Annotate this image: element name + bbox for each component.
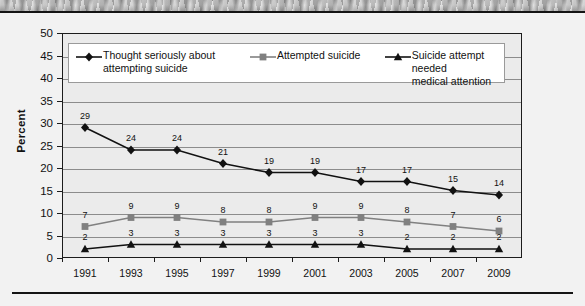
x-axis-tick-mark [108, 258, 109, 262]
x-axis-tick-label: 2003 [349, 267, 372, 279]
y-axis-tick-label: 5 [23, 230, 53, 242]
chart-page: Percent 05101520253035404550 19911993199… [0, 0, 585, 306]
triangle-marker-icon [384, 50, 412, 64]
header-photo-banner [0, 0, 585, 11]
data-point-marker [174, 214, 181, 221]
chart-legend: Thought seriously aboutattempting suicid… [68, 43, 505, 83]
data-point-value-label: 3 [128, 228, 133, 238]
legend-label: Suicide attempt neededmedical attention [412, 49, 504, 88]
data-point-value-label: 3 [174, 228, 179, 238]
series-line [85, 128, 499, 196]
data-point-value-label: 9 [312, 201, 317, 211]
data-point-marker [219, 159, 227, 168]
x-axis-tick-mark [200, 258, 201, 262]
data-point-marker [357, 177, 365, 186]
data-point-value-label: 8 [220, 205, 225, 215]
data-point-value-label: 3 [312, 228, 317, 238]
x-axis-tick-mark [430, 258, 431, 262]
x-axis-tick-label: 2001 [303, 267, 326, 279]
data-point-marker [265, 168, 273, 177]
x-axis-tick-label: 1999 [257, 267, 280, 279]
data-point-value-label: 17 [356, 165, 366, 175]
data-point-value-label: 3 [358, 228, 363, 238]
data-point-value-label: 21 [218, 147, 228, 157]
data-point-marker [449, 186, 457, 195]
y-axis-tick-label: 45 [23, 50, 53, 62]
x-axis-tick-mark [384, 258, 385, 262]
data-point-value-label: 7 [450, 210, 455, 220]
data-point-value-label: 3 [266, 228, 271, 238]
data-point-value-label: 2 [450, 232, 455, 242]
data-point-marker [127, 146, 135, 155]
data-point-marker [220, 219, 227, 226]
data-point-marker [85, 53, 93, 62]
x-axis-tick-label: 1997 [211, 267, 234, 279]
data-point-marker [82, 223, 89, 230]
data-point-value-label: 17 [402, 165, 412, 175]
y-axis-tick-label: 25 [23, 140, 53, 152]
square-marker-icon [249, 50, 277, 64]
y-axis-tick-label: 0 [23, 252, 53, 264]
x-axis-tick-label: 1993 [119, 267, 142, 279]
data-point-marker [495, 191, 503, 200]
data-point-value-label: 2 [82, 232, 87, 242]
data-point-value-label: 9 [128, 201, 133, 211]
data-point-marker [450, 223, 457, 230]
data-point-value-label: 24 [126, 133, 136, 143]
data-point-value-label: 29 [80, 111, 90, 121]
data-point-value-label: 7 [82, 210, 87, 220]
data-point-value-label: 8 [266, 205, 271, 215]
legend-label: Thought seriously aboutattempting suicid… [103, 49, 215, 75]
legend-entry-1[interactable]: Attempted suicide [243, 49, 378, 64]
data-point-marker [266, 219, 273, 226]
data-point-value-label: 2 [404, 232, 409, 242]
footer-divider-rule [12, 292, 573, 294]
x-axis-tick-label: 1991 [73, 267, 96, 279]
y-axis-tick-label: 35 [23, 95, 53, 107]
data-point-marker [358, 214, 365, 221]
x-axis-tick-mark [62, 258, 63, 262]
y-axis-tick-label: 10 [23, 207, 53, 219]
y-axis-tick-label: 30 [23, 117, 53, 129]
data-point-marker [311, 168, 319, 177]
x-axis-tick-mark [246, 258, 247, 262]
y-axis-tick-label: 50 [23, 27, 53, 39]
data-point-value-label: 9 [358, 201, 363, 211]
data-point-marker [173, 146, 181, 155]
data-point-marker [403, 177, 411, 186]
x-axis-tick-mark [476, 258, 477, 262]
data-point-value-label: 24 [172, 133, 182, 143]
data-point-value-label: 9 [174, 201, 179, 211]
legend-entry-2[interactable]: Suicide attempt neededmedical attention [378, 49, 504, 88]
x-axis-tick-mark [154, 258, 155, 262]
data-point-marker [128, 214, 135, 221]
data-point-marker [312, 214, 319, 221]
legend-label: Attempted suicide [277, 49, 360, 62]
data-point-value-label: 6 [496, 214, 501, 224]
data-point-value-label: 19 [310, 156, 320, 166]
data-point-marker [404, 219, 411, 226]
y-axis-tick-label: 40 [23, 72, 53, 84]
diamond-marker-icon [75, 50, 103, 64]
series-line [85, 245, 499, 250]
x-axis-tick-label: 2009 [487, 267, 510, 279]
data-point-value-label: 14 [494, 178, 504, 188]
data-point-value-label: 19 [264, 156, 274, 166]
x-axis-tick-label: 1995 [165, 267, 188, 279]
data-point-value-label: 3 [220, 228, 225, 238]
x-axis-tick-label: 2005 [395, 267, 418, 279]
legend-entry-0[interactable]: Thought seriously aboutattempting suicid… [69, 49, 243, 75]
y-axis-tick-label: 15 [23, 185, 53, 197]
data-point-marker [81, 123, 89, 132]
x-axis-tick-label: 2007 [441, 267, 464, 279]
y-axis-tick-label: 20 [23, 162, 53, 174]
line-chart: Percent 05101520253035404550 19911993199… [0, 13, 585, 292]
series-line [85, 218, 499, 232]
data-point-marker [260, 54, 267, 61]
x-axis-tick-mark [292, 258, 293, 262]
data-point-value-label: 8 [404, 205, 409, 215]
data-point-value-label: 15 [448, 174, 458, 184]
data-point-value-label: 2 [496, 232, 501, 242]
x-axis-tick-mark [338, 258, 339, 262]
